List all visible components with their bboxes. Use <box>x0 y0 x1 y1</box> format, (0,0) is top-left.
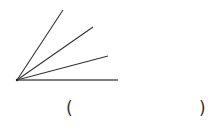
vertex-point <box>16 79 18 81</box>
ray-2 <box>17 27 93 80</box>
answer-open-paren: ( <box>66 100 73 117</box>
answer-close-paren: ) <box>199 100 206 117</box>
angle-diagram <box>0 0 216 129</box>
